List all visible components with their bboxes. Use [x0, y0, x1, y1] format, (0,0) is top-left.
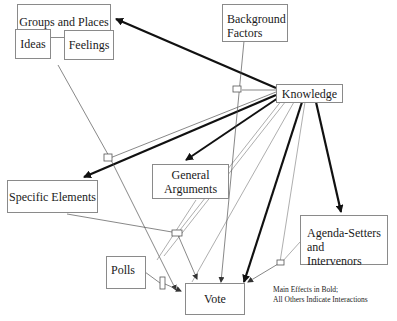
edge-polls-vote — [165, 284, 181, 291]
diagram-edges — [0, 0, 397, 321]
legend-note: Main Effects in Bold; All Others Indicat… — [273, 285, 368, 305]
edge-agenda-vote — [248, 264, 278, 282]
interaction-node-specific — [172, 230, 182, 236]
edge-specific-node — [67, 214, 172, 232]
interaction-node-background — [233, 86, 241, 92]
legend-line2: All Others Indicate Interactions — [273, 295, 368, 305]
edge-polls-node — [145, 272, 160, 283]
node-feelings: Feelings — [64, 30, 114, 60]
node-polls: Polls — [106, 256, 146, 289]
node-general-arguments: General Arguments — [152, 164, 229, 199]
edge-node-vote — [178, 235, 197, 279]
specific-elements-label: Specific Elements — [9, 190, 96, 204]
edge-knowledge-vote — [244, 102, 302, 282]
feelings-label: Feelings — [69, 38, 110, 52]
ideas-label: Ideas — [20, 37, 45, 51]
node-background-factors: Background Factors — [222, 4, 288, 42]
legend-line1: Main Effects in Bold; — [273, 285, 368, 295]
edge-agenda-node — [282, 242, 300, 262]
edge-background-vote — [221, 41, 244, 282]
general-arguments-line2: Arguments — [164, 182, 217, 196]
polls-label: Polls — [111, 263, 135, 277]
interaction-node-agenda — [277, 260, 284, 265]
node-specific-elements: Specific Elements — [7, 180, 98, 213]
agenda-setters-line1: Agenda-Setters and — [307, 226, 387, 254]
edge-knowledge-agenda — [316, 102, 341, 212]
general-arguments-line1: General — [172, 168, 210, 182]
vote-label: Vote — [204, 292, 226, 306]
knowledge-label: Knowledge — [282, 87, 337, 101]
agenda-setters-line2: Intervenors — [307, 254, 387, 268]
background-factors-line2: Factors — [227, 26, 287, 40]
node-agenda-setters: Agenda-Setters and Intervenors — [300, 215, 388, 265]
node-knowledge: Knowledge — [276, 84, 343, 103]
groups-places-label: Groups and Places — [19, 15, 108, 29]
edge-ideas-node — [58, 65, 110, 158]
background-factors-line1: Background — [227, 12, 287, 26]
interaction-node-polls — [160, 277, 165, 289]
node-vote: Vote — [185, 283, 245, 315]
edge-knowledge-ideas-interaction — [110, 92, 276, 158]
interaction-node-ideas — [104, 154, 112, 161]
node-ideas: Ideas — [15, 29, 51, 59]
